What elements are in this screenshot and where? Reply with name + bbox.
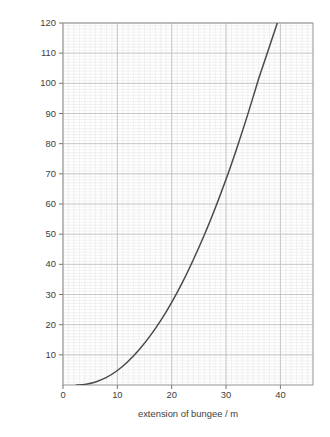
y-tick-label: 20 (30, 320, 56, 330)
y-tick-label: 40 (30, 259, 56, 269)
y-axis-tick-labels: 102030405060708090100110120 (28, 0, 56, 437)
y-tick-label: 80 (30, 139, 56, 149)
y-tick-label: 60 (30, 199, 56, 209)
x-tick-label: 20 (157, 389, 187, 400)
y-tick-label: 120 (30, 18, 56, 28)
x-axis-title: extension of bungee / m (63, 408, 313, 419)
x-tick-label: 40 (265, 389, 295, 400)
y-tick-label: 110 (30, 48, 56, 58)
chart-figure: 102030405060708090100110120 010203040 el… (0, 0, 330, 437)
y-tick-label: 90 (30, 109, 56, 119)
x-tick-label: 30 (211, 389, 241, 400)
x-tick-label: 10 (102, 389, 132, 400)
x-tick-label: 0 (48, 389, 78, 400)
y-tick-label: 50 (30, 229, 56, 239)
y-tick-label: 100 (30, 78, 56, 88)
y-tick-label: 30 (30, 290, 56, 300)
y-tick-label: 70 (30, 169, 56, 179)
y-tick-label: 10 (30, 350, 56, 360)
